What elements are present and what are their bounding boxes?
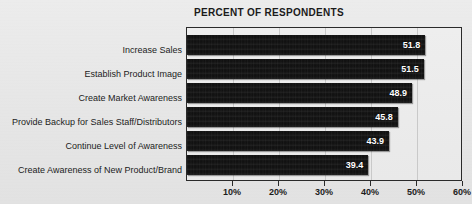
axis-tick-mark bbox=[416, 181, 417, 186]
axis-tick-label: 60% bbox=[442, 187, 472, 197]
value-axis: 10%20%30%40%50%60% bbox=[186, 181, 462, 204]
axis-tick-mark bbox=[278, 181, 279, 186]
bar-row: 48.9 bbox=[187, 83, 462, 103]
axis-tick-mark bbox=[462, 181, 463, 186]
bar-value-label: 48.9 bbox=[187, 83, 407, 103]
chart-title: PERCENT OF RESPONDENTS bbox=[190, 7, 348, 18]
axis-tick-label: 10% bbox=[212, 187, 252, 197]
chart-figure: PERCENT OF RESPONDENTS Increase SalesEst… bbox=[0, 0, 472, 204]
axis-tick-mark bbox=[324, 181, 325, 186]
bar-row: 43.9 bbox=[187, 131, 462, 151]
plot-area: 51.851.548.945.843.939.4 bbox=[186, 27, 462, 181]
bar-value-label: 51.8 bbox=[187, 35, 420, 55]
category-axis: Increase SalesEstablish Product ImageCre… bbox=[0, 33, 182, 181]
bar-value-label: 43.9 bbox=[187, 131, 384, 151]
category-label: Continue Level of Awareness bbox=[0, 141, 182, 151]
category-label: Provide Backup for Sales Staff/Distribut… bbox=[0, 117, 182, 127]
axis-tick-mark bbox=[232, 181, 233, 186]
axis-tick-label: 50% bbox=[396, 187, 436, 197]
bar-row: 51.5 bbox=[187, 59, 462, 79]
axis-tick-label: 30% bbox=[304, 187, 344, 197]
category-label: Increase Sales bbox=[0, 45, 182, 55]
axis-tick-label: 20% bbox=[258, 187, 298, 197]
axis-tick-mark bbox=[370, 181, 371, 186]
bar-row: 39.4 bbox=[187, 155, 462, 175]
bar-row: 51.8 bbox=[187, 35, 462, 55]
category-label: Establish Product Image bbox=[0, 69, 182, 79]
category-label: Create Awareness of New Product/Brand bbox=[0, 165, 182, 175]
bar-value-label: 39.4 bbox=[187, 155, 363, 175]
category-label: Create Market Awareness bbox=[0, 93, 182, 103]
axis-tick-label: 40% bbox=[350, 187, 390, 197]
bar-row: 45.8 bbox=[187, 107, 462, 127]
bar-value-label: 51.5 bbox=[187, 59, 419, 79]
bar-value-label: 45.8 bbox=[187, 107, 393, 127]
